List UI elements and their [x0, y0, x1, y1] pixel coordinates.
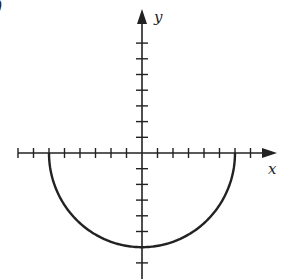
x-axis-arrow-icon — [262, 148, 277, 158]
x-axis-label: x — [268, 160, 277, 178]
coordinate-plane: ) y x — [0, 0, 281, 279]
corner-label: ) — [0, 0, 2, 16]
y-axis-label: y — [153, 8, 163, 26]
y-axis-arrow-icon — [137, 9, 147, 24]
